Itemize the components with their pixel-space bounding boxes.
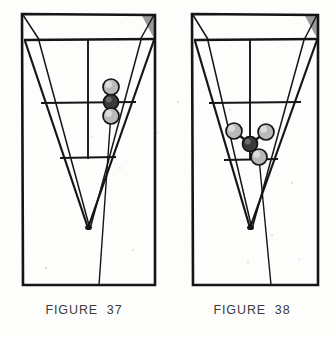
figure-37-caption: FIGURE 37	[0, 303, 168, 317]
figure-panel-37: FIGURE 37	[0, 0, 168, 337]
atom-sphere-top	[103, 79, 119, 95]
funnel-wall-left	[25, 41, 88, 228]
apex-marker	[85, 225, 92, 230]
inner-wall-right	[90, 40, 141, 229]
rim-edge-left	[193, 15, 209, 41]
atom-sphere-upper-right	[258, 124, 274, 140]
atom-sphere-center	[243, 137, 258, 152]
cross-section-upper	[209, 102, 301, 103]
figure-37-drawing	[0, 0, 168, 300]
rim-edge-left	[23, 15, 40, 41]
inner-wall-left	[39, 41, 90, 229]
figure-38-caption: FIGURE 38	[168, 303, 336, 317]
apex-marker	[247, 225, 254, 230]
figure-plate: FIGURE 37	[0, 0, 336, 337]
figure-38-drawing	[168, 0, 336, 300]
molecule-model	[103, 79, 119, 124]
rim-near-line	[24, 39, 155, 40]
shade-triangle	[305, 16, 318, 40]
rim-near-line	[194, 39, 318, 40]
atom-sphere-upper-left	[226, 123, 242, 139]
plumb-line	[99, 113, 111, 285]
atom-sphere-bottom	[103, 108, 119, 124]
figure-panel-38: FIGURE 38	[168, 0, 336, 337]
shade-triangle	[142, 16, 155, 40]
